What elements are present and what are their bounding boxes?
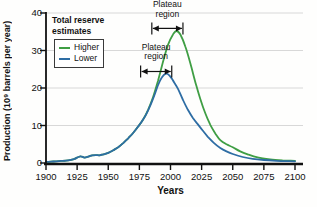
x-tick-label-1950: 1950 <box>93 171 123 182</box>
x-tick-label-1975: 1975 <box>124 171 154 182</box>
x-tick-label-1925: 1925 <box>62 171 92 182</box>
x-axis-title: Years <box>46 185 295 196</box>
hubbert-curve-figure: Production (10⁹ barrels per year) Years … <box>0 0 317 207</box>
x-tick-label-2050: 2050 <box>218 171 248 182</box>
x-tick-label-2025: 2025 <box>187 171 217 182</box>
higher-line-swatch <box>59 47 70 49</box>
annotation-plateau-region-lower: Plateau region <box>129 43 183 63</box>
x-tick-label-2075: 2075 <box>249 171 279 182</box>
legend-item-lower: Lower <box>59 53 101 64</box>
legend-title: Total reserve estimates <box>52 15 116 37</box>
x-axis-tick-labels: 190019251950197520002025205020752100 <box>0 171 317 183</box>
x-tick-label-2000: 2000 <box>156 171 186 182</box>
legend-label-higher: Higher <box>74 43 99 52</box>
legend-box: Higher Lower <box>54 39 104 68</box>
arrowhead-left-icon <box>142 69 148 75</box>
legend: Total reserve estimates Higher Lower <box>52 15 116 68</box>
legend-label-lower: Lower <box>74 54 97 63</box>
y-tick-label-40: 40 <box>18 7 42 18</box>
lower-estimate-curve <box>46 74 295 162</box>
legend-item-higher: Higher <box>59 42 101 53</box>
y-axis-tick-labels: 010203040 <box>0 0 42 180</box>
arrowhead-left-icon <box>153 25 159 31</box>
annotation-plateau-region-higher: Plateau region <box>140 0 194 20</box>
arrowhead-right-icon <box>176 25 182 31</box>
x-tick-label-2100: 2100 <box>280 171 310 182</box>
lower-line-swatch <box>59 58 70 60</box>
y-tick-label-10: 10 <box>18 120 42 131</box>
y-tick-label-20: 20 <box>18 82 42 93</box>
y-tick-label-30: 30 <box>18 45 42 56</box>
y-tick-label-0: 0 <box>18 157 42 168</box>
